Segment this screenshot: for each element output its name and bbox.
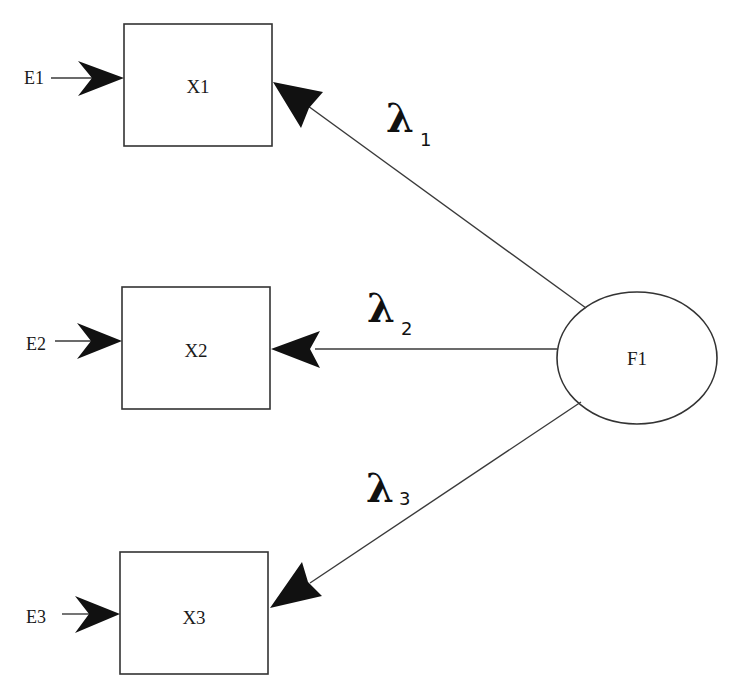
e1-label: E1 (24, 68, 44, 88)
error-e2: E2 (26, 323, 122, 359)
f1-label: F1 (627, 348, 647, 369)
x1-label: X1 (186, 76, 209, 97)
lambda-1-subscript: 1 (420, 129, 431, 150)
loading-path-f1-x1 (273, 82, 586, 308)
e2-label: E2 (26, 334, 46, 354)
lambda-3-label: λ 3 (366, 464, 410, 511)
lambda-1-label: λ 1 (386, 94, 431, 150)
lambda-3-subscript: 3 (399, 488, 410, 509)
observed-node-x1: X1 (124, 24, 272, 146)
lambda-1-symbol: λ (386, 94, 414, 141)
observed-node-x3: X3 (120, 552, 268, 674)
f1-x3-line (310, 402, 581, 583)
f1-x2-arrowhead-icon (271, 331, 320, 368)
f1-x3-arrowhead-icon (270, 562, 322, 608)
error-e3: E3 (26, 596, 120, 633)
loading-path-f1-x2 (271, 331, 557, 368)
x3-label: X3 (182, 607, 205, 628)
f1-x1-arrowhead-icon (273, 82, 323, 128)
f1-x1-line (308, 106, 586, 308)
lambda-2-label: λ 2 (367, 284, 412, 339)
loading-path-f1-x3 (270, 402, 581, 608)
lambda-2-subscript: 2 (401, 318, 412, 339)
lambda-3-symbol: λ (366, 464, 394, 511)
observed-node-x2: X2 (122, 287, 270, 409)
e3-label: E3 (26, 607, 46, 627)
x2-label: X2 (184, 340, 207, 361)
cfa-diagram: X1 E1 X2 E2 X3 E3 F1 (0, 0, 738, 697)
error-e1: E1 (24, 61, 124, 96)
lambda-2-symbol: λ (367, 284, 395, 331)
latent-factor-f1: F1 (557, 292, 717, 424)
